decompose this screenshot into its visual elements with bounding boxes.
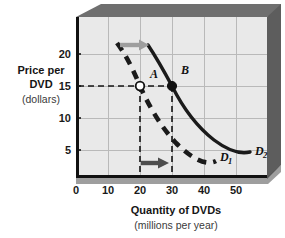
x-axis-title-units: (millions per year) — [134, 219, 217, 231]
y-axis-title-line2: DVD — [29, 78, 52, 90]
chart-figure: A B D 1 D 2 20 15 10 5 0 10 20 30 40 50 … — [0, 0, 285, 238]
x-tick-label-50: 50 — [230, 184, 242, 196]
y-tick-label-15: 15 — [59, 80, 71, 92]
x-tick-label-20: 20 — [134, 184, 146, 196]
point-label-a: A — [149, 67, 158, 81]
y-tick-label-20: 20 — [59, 48, 71, 60]
y-tick-label-10: 10 — [59, 112, 71, 124]
curve-label-d1-subscript: 1 — [228, 156, 232, 166]
y-axis-title-units: (dollars) — [22, 93, 60, 105]
frame-right-bevel — [267, 4, 281, 179]
frame-top-bevel — [76, 4, 281, 17]
demand-shift-chart: A B D 1 D 2 20 15 10 5 0 10 20 30 40 50 … — [0, 0, 285, 238]
x-tick-label-30: 30 — [166, 184, 178, 196]
y-axis-title-line1: Price per — [17, 64, 65, 76]
x-tick-label-40: 40 — [198, 184, 210, 196]
point-label-b: B — [180, 63, 189, 77]
x-axis-title: Quantity of DVDs — [131, 204, 221, 216]
y-tick-label-5: 5 — [65, 144, 71, 156]
data-point-a — [136, 82, 145, 91]
x-tick-label-10: 10 — [102, 184, 114, 196]
curve-label-d2-subscript: 2 — [262, 150, 268, 160]
data-point-b — [167, 81, 176, 90]
x-tick-label-0: 0 — [73, 184, 79, 196]
